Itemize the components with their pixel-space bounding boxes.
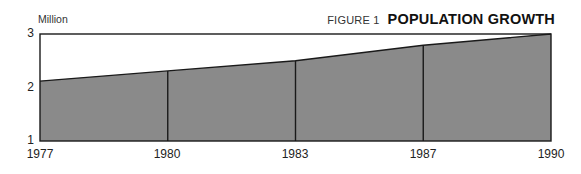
figure-number: FIGURE 1 [327, 14, 379, 26]
x-tick-label: 1980 [154, 147, 181, 161]
y-tick-label: 2 [20, 80, 34, 94]
chart-title: POPULATION GROWTH [388, 11, 555, 27]
x-tick-label: 1990 [538, 147, 565, 161]
figure-heading: FIGURE 1POPULATION GROWTH [327, 10, 555, 28]
x-tick-label: 1983 [282, 147, 309, 161]
x-tick-label: 1987 [410, 147, 437, 161]
y-tick-label: 3 [20, 26, 34, 40]
y-axis-unit-label: Million [38, 13, 68, 25]
y-tick-label: 1 [20, 133, 34, 147]
x-tick-label: 1977 [27, 147, 54, 161]
